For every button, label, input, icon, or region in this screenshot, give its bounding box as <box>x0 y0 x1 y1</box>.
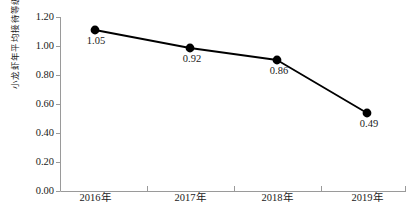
x-tick-label-2017: 2017年 <box>155 193 225 204</box>
data-point-marker <box>363 109 372 118</box>
data-point-marker <box>186 44 195 53</box>
plot-area <box>0 0 416 216</box>
data-value-label: 0.49 <box>360 119 378 130</box>
data-point-marker <box>273 56 282 65</box>
data-line-series-1 <box>95 30 367 113</box>
data-markers <box>91 26 372 118</box>
data-value-label: 1.05 <box>87 36 105 47</box>
line-chart: 小龙虾年平均接待等级 1.20 1.00 0.80 0.60 0.40 0.20… <box>0 0 416 216</box>
x-tick-label-2018: 2018年 <box>242 193 312 204</box>
y-axis-ticks <box>56 18 61 192</box>
x-tick-label-2019: 2019年 <box>332 193 402 204</box>
data-value-label: 0.86 <box>270 66 288 77</box>
x-tick-label-2016: 2016年 <box>60 193 130 204</box>
data-value-label: 0.92 <box>183 54 201 65</box>
x-axis-ticks <box>148 186 406 192</box>
data-point-marker <box>91 26 100 35</box>
